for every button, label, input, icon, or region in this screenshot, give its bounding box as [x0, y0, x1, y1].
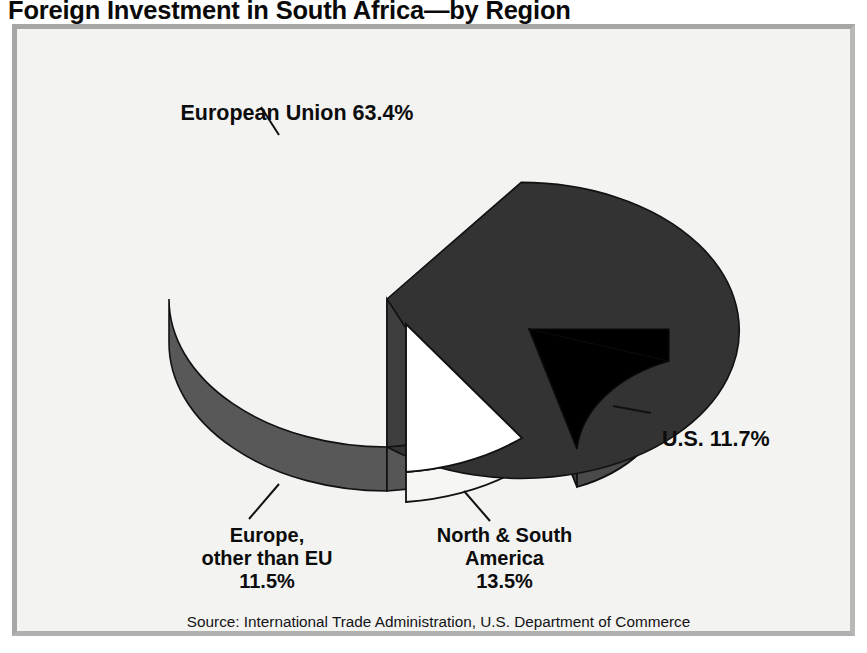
slice-side-european-union	[169, 299, 387, 491]
chart-frame: European Union 63.4% U.S. 11.7% Europe, …	[12, 24, 855, 636]
slice-label-european-union: European Union 63.4%	[167, 101, 427, 126]
chart-figure: Foreign Investment in South Africa—by Re…	[0, 0, 867, 653]
page-title: Foreign Investment in South Africa—by Re…	[8, 0, 571, 25]
slice-label-us: U.S. 11.7%	[662, 427, 842, 452]
chart-panel: European Union 63.4% U.S. 11.7% Europe, …	[17, 29, 850, 631]
slice-label-north-south-america: North & South America 13.5%	[392, 524, 617, 592]
leader-line-europe-other	[249, 484, 279, 519]
leader-line-north-south-america	[464, 491, 490, 521]
source-note: Source: International Trade Administrati…	[17, 613, 860, 631]
slice-label-europe-other: Europe, other than EU 11.5%	[157, 524, 377, 592]
